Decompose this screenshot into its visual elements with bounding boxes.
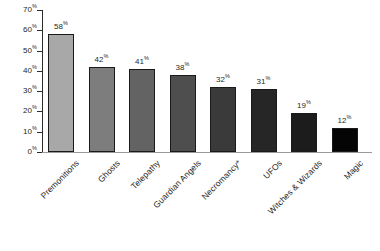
- bar-value-label: 38%: [163, 63, 203, 72]
- bar: [291, 113, 317, 152]
- y-axis-tick-label: 0%: [27, 147, 37, 156]
- y-axis-tick-label: 10%: [23, 127, 37, 136]
- y-axis-tick-label: 20%: [23, 106, 37, 115]
- bar: [48, 34, 74, 152]
- y-axis-tick: [37, 10, 42, 11]
- y-axis-line: [42, 10, 43, 153]
- y-axis-tick: [37, 132, 42, 133]
- category-label: Magic: [273, 158, 365, 250]
- plot-area: 70%60%50%40%30%20%10%0% 58%42%41%38%32%3…: [0, 0, 380, 251]
- bar-value-label: 41%: [122, 57, 162, 66]
- y-axis-tick: [37, 71, 42, 72]
- y-axis-tick: [37, 51, 42, 52]
- bar: [251, 89, 277, 152]
- bar: [129, 69, 155, 152]
- bar-value-label: 31%: [244, 77, 284, 86]
- x-axis-baseline: [42, 152, 372, 153]
- bar-value-label: 32%: [203, 75, 243, 84]
- y-axis-tick-label: 70%: [23, 5, 37, 14]
- y-axis-tick-label: 60%: [23, 25, 37, 34]
- bar-value-label: 12%: [325, 116, 365, 125]
- y-axis-tick: [37, 152, 42, 153]
- bar-value-label: 42%: [82, 55, 122, 64]
- bar: [210, 87, 236, 152]
- bar-value-label: 58%: [41, 22, 81, 31]
- y-axis-tick-label: 40%: [23, 66, 37, 75]
- y-axis-tick: [37, 111, 42, 112]
- bar: [332, 128, 358, 152]
- y-axis-tick-label: 30%: [23, 86, 37, 95]
- bar-chart: 70%60%50%40%30%20%10%0% 58%42%41%38%32%3…: [0, 0, 380, 251]
- bar: [170, 75, 196, 152]
- y-axis-tick-label: 50%: [23, 46, 37, 55]
- bar: [89, 67, 115, 152]
- y-axis-tick: [37, 91, 42, 92]
- bar-value-label: 19%: [284, 101, 324, 110]
